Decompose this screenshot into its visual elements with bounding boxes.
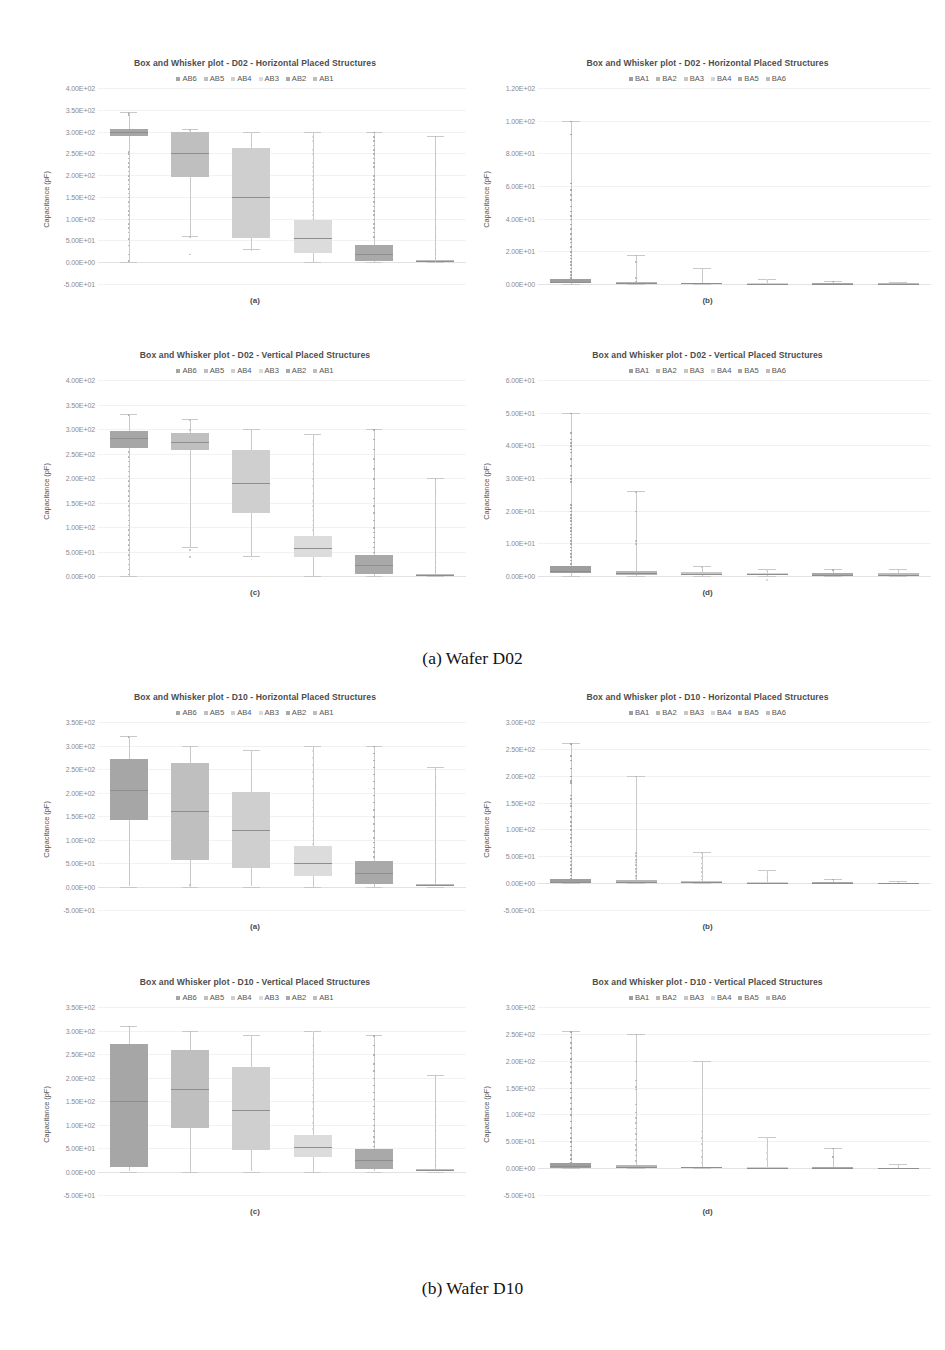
legend-label: BA3 xyxy=(690,366,704,375)
chart-legend: AB6AB5AB4AB3AB2AB1 xyxy=(40,708,470,717)
box-group xyxy=(538,1007,931,1221)
box-group xyxy=(98,722,466,936)
outlier-point xyxy=(435,153,437,155)
outlier-point xyxy=(435,260,437,262)
legend-label: AB6 xyxy=(182,993,196,1002)
legend-swatch-icon xyxy=(766,711,770,715)
legend-label: BA1 xyxy=(635,993,649,1002)
legend-label: BA4 xyxy=(717,708,731,717)
axis-tick-label: 3.00E+02 xyxy=(506,1004,535,1011)
axis-tick-label: 0.00E+00 xyxy=(506,1165,535,1172)
axis-tick-label: 2.00E+02 xyxy=(506,772,535,779)
axis-tick-label: 1.20E+02 xyxy=(506,85,535,92)
axis-tick-label: 3.50E+02 xyxy=(66,106,95,113)
axis-tick-label: -5.00E+01 xyxy=(63,1192,95,1199)
box-group xyxy=(98,1007,466,1221)
panel-letter: (b) xyxy=(480,922,935,931)
legend-item: BA2 xyxy=(656,708,676,717)
legend-item: AB4 xyxy=(231,366,251,375)
legend-item: BA1 xyxy=(629,993,649,1002)
legend-swatch-icon xyxy=(313,996,317,1000)
legend-item: BA5 xyxy=(738,708,758,717)
legend-swatch-icon xyxy=(766,77,770,81)
chart-title: Box and Whisker plot - D02 - Horizontal … xyxy=(480,58,935,68)
panel-d10-a: Box and Whisker plot - D10 - Horizontal … xyxy=(40,692,470,954)
panel-d10-b: Box and Whisker plot - D10 - Horizontal … xyxy=(480,692,935,954)
legend-swatch-icon xyxy=(313,77,317,81)
legend-swatch-icon xyxy=(176,711,180,715)
caption-wafer-d02: (a) Wafer D02 xyxy=(0,648,945,669)
legend-swatch-icon xyxy=(204,996,208,1000)
legend-label: BA5 xyxy=(744,74,758,83)
axis-tick-label: 8.00E+01 xyxy=(506,150,535,157)
legend-item: BA6 xyxy=(766,993,786,1002)
axis-tick-label: 6.00E+01 xyxy=(506,183,535,190)
axis-tick-label: 1.00E+02 xyxy=(506,117,535,124)
legend-swatch-icon xyxy=(286,77,290,81)
legend-item: AB5 xyxy=(204,708,224,717)
axis-tick-label: 1.00E+02 xyxy=(506,826,535,833)
axis-tick-label: 1.50E+02 xyxy=(506,799,535,806)
legend-swatch-icon xyxy=(684,711,688,715)
outlier-point xyxy=(435,804,437,806)
axis-tick-label: 1.00E+02 xyxy=(66,836,95,843)
chart-title: Box and Whisker plot - D10 - Vertical Pl… xyxy=(480,977,935,987)
axis-tick-label: 3.00E+02 xyxy=(66,128,95,135)
y-axis-ticks: 3.00E+022.50E+022.00E+021.50E+021.00E+02… xyxy=(491,1007,537,1221)
legend-label: AB3 xyxy=(265,993,279,1002)
axis-tick-label: 1.50E+02 xyxy=(66,193,95,200)
legend-item: AB5 xyxy=(204,366,224,375)
legend-item: AB3 xyxy=(259,993,279,1002)
chart-legend: AB6AB5AB4AB3AB2AB1 xyxy=(40,366,470,375)
panel-d02-c: Box and Whisker plot - D02 - Vertical Pl… xyxy=(40,350,470,620)
legend-item: AB1 xyxy=(313,708,333,717)
outlier-point xyxy=(435,554,437,556)
plot-area-wrapper: Capacitance (pF)3.50E+023.00E+022.50E+02… xyxy=(40,1007,470,1221)
median-line xyxy=(878,284,919,285)
legend-swatch-icon xyxy=(231,996,235,1000)
outlier-point xyxy=(435,249,437,251)
axis-tick-label: 2.50E+02 xyxy=(66,1051,95,1058)
outlier-point xyxy=(435,188,437,190)
legend-label: BA6 xyxy=(772,74,786,83)
axis-tick-label: 1.50E+02 xyxy=(66,813,95,820)
outlier-point xyxy=(435,1108,437,1110)
axis-tick-label: 6.00E+01 xyxy=(506,377,535,384)
outlier-point xyxy=(435,858,437,860)
legend-swatch-icon xyxy=(176,369,180,373)
axis-tick-label: 0.00E+00 xyxy=(66,259,95,266)
axis-tick-label: 2.00E+02 xyxy=(506,1057,535,1064)
axis-tick-label: -5.00E+01 xyxy=(503,907,535,914)
axis-tick-label: -5.00E+01 xyxy=(63,907,95,914)
legend-label: AB1 xyxy=(319,366,333,375)
legend-label: BA2 xyxy=(662,708,676,717)
chart-legend: AB6AB5AB4AB3AB2AB1 xyxy=(40,993,470,1002)
y-axis-ticks: 3.00E+022.50E+022.00E+021.50E+021.00E+02… xyxy=(491,722,537,936)
axis-tick-label: 2.00E+01 xyxy=(506,248,535,255)
axis-tick-label: 0.00E+00 xyxy=(506,281,535,288)
legend-swatch-icon xyxy=(738,369,742,373)
legend-item: BA1 xyxy=(629,74,649,83)
axis-tick-label: 5.00E+01 xyxy=(506,409,535,416)
legend-label: AB3 xyxy=(265,74,279,83)
legend-swatch-icon xyxy=(766,996,770,1000)
legend-swatch-icon xyxy=(711,369,715,373)
y-axis-ticks: 4.00E+023.50E+023.00E+022.50E+022.00E+02… xyxy=(51,380,97,602)
legend-label: BA2 xyxy=(662,74,676,83)
axis-tick-label: 4.00E+01 xyxy=(506,442,535,449)
axis-tick-label: 3.00E+02 xyxy=(66,742,95,749)
legend-label: BA1 xyxy=(635,74,649,83)
plot-area-wrapper: Capacitance (pF)3.00E+022.50E+022.00E+02… xyxy=(480,1007,935,1221)
legend-item: AB2 xyxy=(286,993,306,1002)
whisker-cap xyxy=(889,569,907,570)
outlier-point xyxy=(435,175,437,177)
axis-tick-label: 3.50E+02 xyxy=(66,719,95,726)
legend-swatch-icon xyxy=(176,996,180,1000)
plot-area-wrapper: Capacitance (pF)1.20E+021.00E+028.00E+01… xyxy=(480,88,935,310)
axis-tick-label: 0.00E+00 xyxy=(66,1168,95,1175)
axis-tick-label: 4.00E+01 xyxy=(506,215,535,222)
outlier-point xyxy=(435,1164,437,1166)
outlier-point xyxy=(435,561,437,563)
outlier-point xyxy=(435,571,437,573)
outlier-point xyxy=(435,566,437,568)
